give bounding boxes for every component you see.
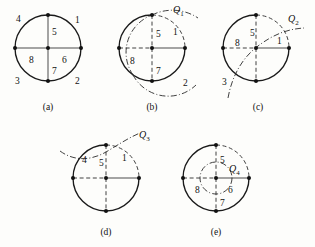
panel-a-region-label-5: 5: [52, 27, 57, 37]
panel-e-caption: (e): [211, 227, 222, 238]
panel-a-caption: (a): [43, 102, 54, 113]
panel-d-caption: (d): [100, 227, 111, 238]
panel-b-region-label-8: 8: [130, 56, 135, 66]
panel-c-dot-center: [254, 46, 258, 50]
panel-c-dot-left: [221, 46, 225, 50]
panel-b-region-label-7: 7: [156, 66, 161, 76]
panel-c: 5 8 1 3 Q2 (c): [222, 13, 304, 113]
panel-e-region-label-8: 8: [195, 185, 200, 195]
panel-d-region-label-5: 5: [99, 158, 104, 168]
panel-e-dot-right: [247, 176, 251, 180]
panel-d-dot-left: [71, 176, 75, 180]
panel-a-region-label-4: 4: [16, 14, 21, 24]
panel-d-dot-top: [104, 143, 108, 147]
panel-e-dot-left: [181, 176, 185, 180]
panel-c-region-label-8: 8: [235, 38, 240, 48]
panel-c-dot-top: [254, 13, 258, 17]
panel-e: 5 8 6 7 Q4 (e): [181, 143, 251, 238]
panel-a-region-label-2: 2: [75, 76, 80, 86]
panel-a-dot-bottom: [46, 79, 50, 83]
panel-b-dot-center: [150, 46, 154, 50]
panel-b-dot-left: [117, 46, 121, 50]
panel-a-region-label-7: 7: [52, 66, 57, 76]
panel-c-dot-right: [287, 46, 291, 50]
panel-a-region-label-1: 1: [75, 15, 80, 25]
panel-e-region-label-5: 5: [220, 155, 225, 165]
panel-e-region-label-7: 7: [220, 198, 225, 208]
panel-b-region-label-2: 2: [183, 78, 188, 88]
panel-b-curve-q1-label: Q1: [173, 4, 184, 18]
panel-a: 4 1 5 8 6 7 3 2 (a): [13, 13, 83, 113]
panel-a-dot-center: [46, 46, 50, 50]
panel-c-region-label-1: 1: [277, 36, 282, 46]
panel-c-curve-q2-label: Q2: [288, 13, 299, 27]
panel-d-dot-center: [104, 176, 108, 180]
circle-partition-figure: 4 1 5 8 6 7 3 2 (a) 5 1 8 7: [0, 0, 315, 247]
panel-a-region-label-3: 3: [15, 76, 20, 86]
panel-b-dot-bottom: [150, 79, 154, 83]
panel-a-dot-top: [46, 13, 50, 17]
panel-d-region-label-4: 4: [82, 155, 87, 165]
panel-d-dot-bottom: [104, 209, 108, 213]
panel-e-dot-bottom: [214, 209, 218, 213]
panel-a-region-label-8: 8: [29, 55, 34, 65]
panel-d-dot-right: [137, 176, 141, 180]
panel-e-curve-q4-label: Q4: [229, 163, 240, 177]
figure-root: 4 1 5 8 6 7 3 2 (a) 5 1 8 7: [0, 0, 315, 247]
panel-c-dot-bottom: [254, 79, 258, 83]
panel-a-dot-left: [13, 46, 17, 50]
panel-d-curve-q3-label: Q3: [139, 129, 150, 143]
panel-a-dot-right: [79, 46, 83, 50]
panel-b-caption: (b): [146, 102, 157, 113]
panel-c-region-label-5: 5: [250, 28, 255, 38]
panel-b-dot-right: [183, 46, 187, 50]
panel-b-region-label-1: 1: [173, 27, 178, 37]
panel-c-region-label-3: 3: [222, 77, 227, 87]
panel-c-caption: (c): [253, 102, 264, 113]
panel-a-region-label-6: 6: [62, 55, 67, 65]
overlay-dots: [71, 13, 291, 213]
panel-b-dot-top: [150, 13, 154, 17]
panel-e-dot-top: [214, 143, 218, 147]
panel-b: 5 1 8 7 2 Q1 (b): [119, 4, 198, 113]
panel-e-region-label-6: 6: [228, 185, 233, 195]
panel-d-region-label-1: 1: [122, 153, 127, 163]
panel-b-region-label-5: 5: [156, 29, 161, 39]
panel-e-dot-center: [214, 176, 218, 180]
